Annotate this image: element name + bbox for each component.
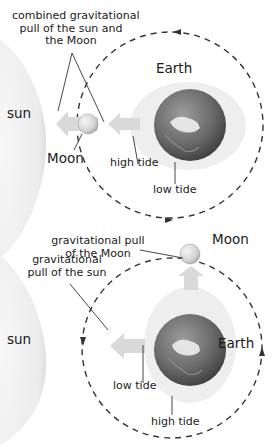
moon-sphere — [180, 244, 200, 264]
earth-label-top: Earth — [156, 61, 192, 77]
orbit-arrow-icon — [173, 29, 181, 35]
earth-label-bottom: Earth — [218, 336, 254, 352]
combined-pull-label: combined gravitational pull of the sun a… — [12, 10, 130, 48]
sun-shape — [0, 255, 46, 445]
low-tide-label-top: low tide — [153, 184, 196, 197]
gravity-arrow-toward-moon — [178, 266, 204, 290]
sun-shape — [0, 40, 46, 258]
gravity-arrow-toward-sun — [110, 333, 145, 359]
moon-label-bottom: Moon — [212, 232, 249, 248]
high-tide-label-top: high tide — [110, 157, 159, 170]
sun-label-bottom: sun — [7, 332, 31, 348]
orbit-arrow-icon — [80, 337, 86, 346]
orbit-arrow-icon — [259, 347, 265, 356]
top-diagram — [0, 29, 263, 258]
moon-label-top: Moon — [47, 151, 84, 167]
low-tide-label-bottom: low tide — [113, 380, 156, 393]
moon-sphere — [78, 114, 98, 134]
high-tide-label-bottom: high tide — [151, 416, 200, 429]
tides-diagram: combined gravitational pull of the sun a… — [0, 0, 274, 447]
sun-label-top: sun — [7, 106, 31, 122]
sun-pull-label: gravitational pull of the sun — [24, 254, 110, 279]
